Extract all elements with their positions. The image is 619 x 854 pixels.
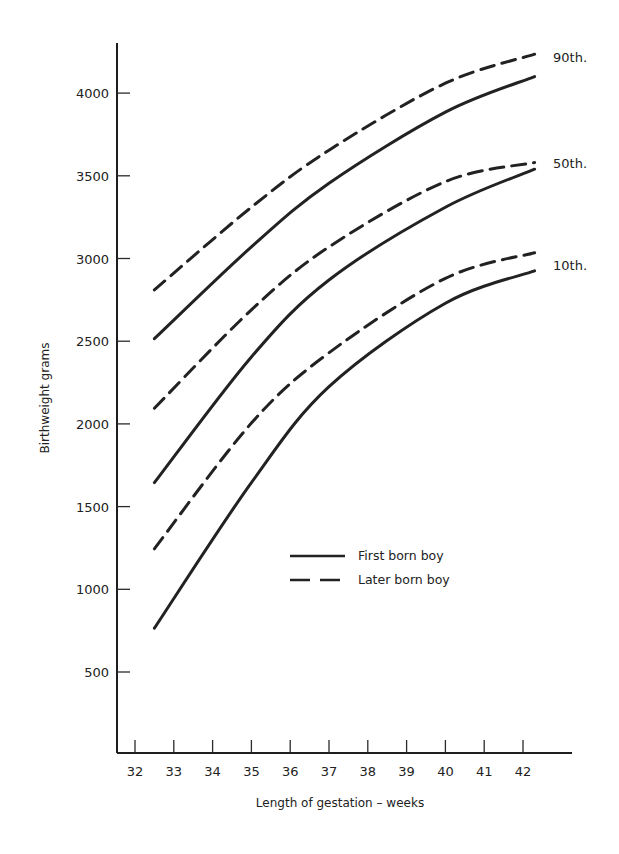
y-tick-label: 500 — [84, 665, 109, 680]
legend-label-later-born: Later born boy — [358, 572, 450, 587]
x-tick-label: 42 — [515, 764, 532, 779]
curve-10th-percentile-first-born-boy — [154, 271, 534, 628]
x-tick-label: 40 — [437, 764, 454, 779]
percentile-curves — [154, 54, 534, 628]
axes — [117, 43, 572, 753]
x-ticks: 3233343536373839404142 — [127, 740, 532, 779]
curve-50th-percentile-first-born-boy — [154, 169, 534, 482]
x-tick-label: 32 — [127, 764, 144, 779]
percentile-label-10th: 10th. — [553, 258, 587, 273]
x-tick-label: 41 — [476, 764, 493, 779]
curve-10th-percentile-later-born-boy — [154, 253, 534, 549]
y-tick-label: 1000 — [76, 582, 109, 597]
legend-label-first-born: First born boy — [358, 548, 444, 563]
percentile-label-50th: 50th. — [553, 156, 587, 171]
x-tick-label: 34 — [204, 764, 221, 779]
y-tick-label: 2500 — [76, 334, 109, 349]
x-tick-label: 38 — [360, 764, 377, 779]
x-tick-label: 36 — [282, 764, 299, 779]
y-tick-label: 3500 — [76, 169, 109, 184]
percentile-labels: 90th.50th.10th. — [553, 50, 587, 273]
legend: First born boy Later born boy — [290, 548, 450, 587]
x-tick-label: 37 — [321, 764, 338, 779]
x-axis-title: Length of gestation – weeks — [256, 796, 424, 810]
y-tick-label: 3000 — [76, 252, 109, 267]
x-tick-label: 33 — [166, 764, 183, 779]
y-axis-title: Birthweight grams — [38, 343, 52, 454]
y-tick-label: 4000 — [76, 86, 109, 101]
y-tick-label: 1500 — [76, 500, 109, 515]
birthweight-chart: 5001000150020002500300035004000 32333435… — [0, 0, 619, 854]
y-tick-label: 2000 — [76, 417, 109, 432]
x-tick-label: 39 — [398, 764, 415, 779]
x-tick-label: 35 — [243, 764, 260, 779]
percentile-label-90th: 90th. — [553, 50, 587, 65]
y-ticks: 5001000150020002500300035004000 — [76, 86, 130, 680]
curve-90th-percentile-first-born-boy — [154, 77, 534, 339]
